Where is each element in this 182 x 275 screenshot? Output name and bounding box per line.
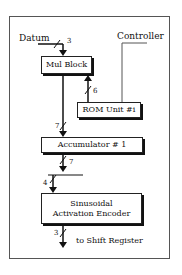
encoder-line1: Sinusoidal [70, 199, 112, 209]
bus-width-encoder-in: 4 [43, 178, 47, 188]
mul-block: Mul Block [41, 56, 92, 74]
accumulator-block: Accumulator # 1 [41, 137, 143, 153]
bus-width-rom: 6 [93, 86, 97, 96]
bus-width-datum: 3 [67, 36, 71, 46]
bus-width-mul-out: 7 [55, 121, 59, 131]
arrow-down-icon [59, 242, 67, 248]
arrow-down-icon [59, 166, 67, 172]
bus-width-encoder-out: 3 [54, 228, 58, 238]
output-label: to Shift Register [76, 236, 143, 246]
arrow-up-icon [84, 75, 92, 81]
controller-label: Controller [117, 31, 164, 41]
datum-label: Datum [19, 33, 50, 43]
encoder-block: Sinusoidal Activation Encoder [41, 193, 142, 224]
rom-unit-block: ROM Unit #i [77, 102, 141, 118]
encoder-line2: Activation Encoder [53, 209, 131, 219]
bus-width-acc-out: 7 [69, 157, 73, 167]
